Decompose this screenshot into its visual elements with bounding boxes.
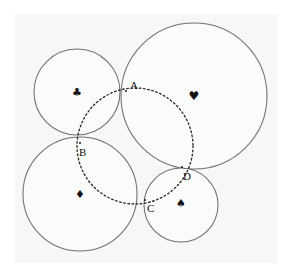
point-label-c: C <box>147 202 154 214</box>
club-suit-icon: ♣ <box>72 86 82 99</box>
point-label-a: A <box>130 79 138 91</box>
point-c-marker <box>144 199 146 201</box>
diamond-suit-icon: ♦ <box>75 188 85 201</box>
point-label-d: D <box>183 170 191 182</box>
point-label-b: B <box>79 146 86 158</box>
point-b-marker <box>79 142 81 144</box>
figure-container: ♣♥♦♠ABCD <box>0 0 291 277</box>
spade-suit-icon: ♠ <box>176 197 186 210</box>
point-d-marker <box>181 166 183 168</box>
geometry-figure: ♣♥♦♠ABCD <box>0 0 291 277</box>
heart-suit-icon: ♥ <box>189 89 200 103</box>
point-a-marker <box>125 90 127 92</box>
